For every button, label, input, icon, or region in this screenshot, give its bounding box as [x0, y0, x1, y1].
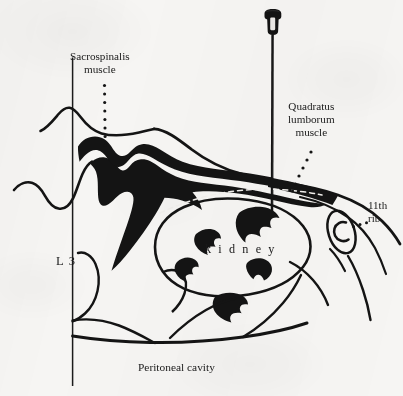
label-sacrospinalis-muscle: Sacrospinalis muscle [70, 50, 130, 76]
label-rib-line1: 11th [368, 199, 387, 212]
label-peritoneal-cavity: Peritoneal cavity [138, 361, 215, 374]
label-kidney: k i d n e y [205, 242, 277, 256]
anatomical-diagram [0, 0, 403, 396]
label-quadratus-line1: Quadratus [288, 100, 335, 113]
label-quadratus-line2: lumborum [288, 113, 335, 126]
kidney-calyces [175, 207, 280, 323]
label-l3-vertebra: L 3 [56, 254, 76, 269]
label-sacrospinalis-line1: Sacrospinalis [70, 50, 130, 63]
label-eleventh-rib: 11th rib [368, 199, 387, 225]
label-sacrospinalis-line2: muscle [70, 63, 130, 76]
label-quadratus-line3: muscle [288, 126, 335, 139]
eleventh-rib-cross-section [322, 207, 360, 257]
figure-canvas: Sacrospinalis muscle Quadratus lumborum … [0, 0, 403, 396]
label-quadratus-lumborum-muscle: Quadratus lumborum muscle [288, 100, 335, 140]
needle-hub [265, 9, 282, 35]
label-rib-line2: rib [368, 212, 387, 225]
sacrospinalis-leader-dots [103, 84, 107, 147]
